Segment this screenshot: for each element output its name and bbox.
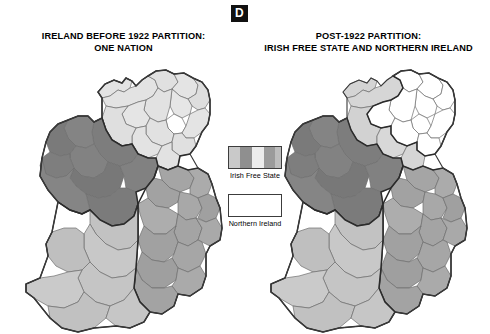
province-leinster xyxy=(134,166,222,314)
map-legend: Irish Free State Northern Ireland xyxy=(216,146,294,242)
map-title-line1: POST-1922 PARTITION: xyxy=(316,31,421,41)
map-title-before-partition: IRELAND BEFORE 1922 PARTITION: ONE NATIO… xyxy=(6,30,241,55)
map-title-line2: ONE NATION xyxy=(6,42,241,54)
map-panel-before-partition: IRELAND BEFORE 1922 PARTITION: ONE NATIO… xyxy=(6,0,241,334)
province-munster xyxy=(26,204,150,332)
map-title-line2: IRISH FREE STATE AND NORTHERN IRELAND xyxy=(251,42,486,54)
legend-item-northern-ireland: Northern Ireland xyxy=(216,194,294,229)
legend-item-irish-free-state: Irish Free State xyxy=(216,146,294,181)
map-ireland-before-partition xyxy=(6,56,241,334)
legend-swatch-irish-free-state xyxy=(228,146,282,169)
province-leinster xyxy=(379,166,467,314)
map-title-line1: IRELAND BEFORE 1922 PARTITION: xyxy=(42,31,206,41)
legend-label-northern-ireland: Northern Ireland xyxy=(216,219,294,229)
legend-label-irish-free-state: Irish Free State xyxy=(216,171,294,181)
legend-swatch-northern-ireland xyxy=(228,194,282,217)
map-title-post-partition: POST-1922 PARTITION: IRISH FREE STATE AN… xyxy=(251,30,486,55)
